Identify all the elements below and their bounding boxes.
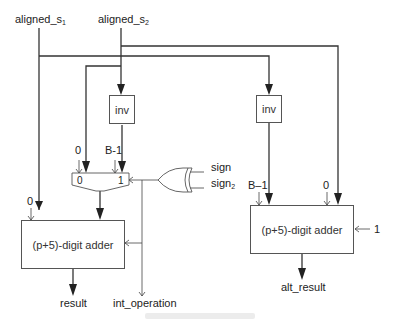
xor-gate	[158, 168, 204, 192]
const-mux-bm1: B-1	[105, 145, 122, 156]
mux-in1-label: 1	[118, 176, 124, 186]
const-mux-zero: 0	[75, 145, 81, 156]
figure-caption-faint	[145, 313, 255, 319]
wiring	[0, 0, 397, 321]
inv-right-block: inv	[256, 95, 282, 123]
output-alt-result: alt_result	[281, 282, 326, 293]
right-adder-block: (p+5)-digit adder	[250, 205, 354, 254]
const-right-adder-carry: 1	[374, 224, 380, 235]
const-right-adder-zero: 0	[323, 180, 329, 191]
output-result: result	[60, 298, 87, 309]
const-right-adder-bm1: B–1	[248, 180, 268, 191]
const-left-adder-zero: 0	[27, 196, 33, 207]
mux-in0-label: 0	[77, 176, 83, 186]
left-adder-block: (p+5)-digit adder	[21, 220, 125, 269]
xor-input-sign2: sign2	[211, 178, 235, 190]
output-int-operation: int_operation	[113, 298, 177, 309]
inv-left-block: inv	[109, 95, 135, 124]
input-aligned-s1: aligned_s1	[15, 14, 66, 26]
xor-input-sign: sign	[211, 162, 231, 173]
input-aligned-s2: aligned_s2	[98, 14, 149, 26]
